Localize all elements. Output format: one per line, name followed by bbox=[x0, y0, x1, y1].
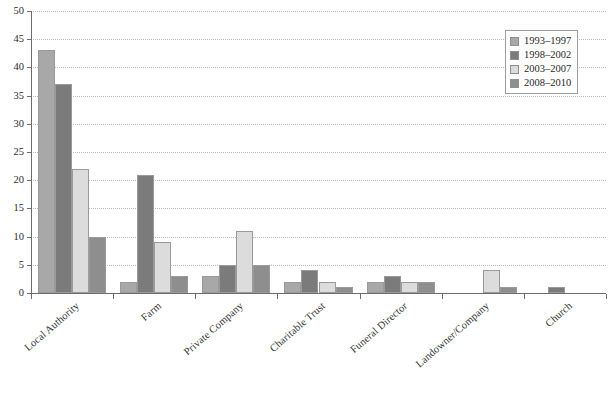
y-axis-tick-label: 50 bbox=[0, 6, 24, 17]
x-axis-tick bbox=[524, 294, 525, 299]
legend-label: 1993–1997 bbox=[524, 36, 571, 47]
x-axis-tick bbox=[195, 294, 196, 299]
bar bbox=[219, 265, 236, 293]
bar bbox=[367, 282, 384, 293]
x-axis-tick-label: Funeral Director bbox=[348, 300, 409, 355]
bar-chart-figure: 05101520253035404550 Local AuthorityFarm… bbox=[0, 0, 613, 393]
legend-swatch-icon bbox=[510, 79, 519, 88]
bar bbox=[154, 242, 171, 293]
y-axis-tick-label: 45 bbox=[0, 34, 24, 45]
x-axis-tick bbox=[277, 294, 278, 299]
x-axis-tick bbox=[606, 294, 607, 299]
x-axis-tick-label: Landowner/Company bbox=[414, 300, 492, 369]
x-axis-tick bbox=[360, 294, 361, 299]
legend-swatch-icon bbox=[510, 51, 519, 60]
bar bbox=[137, 175, 154, 293]
y-axis-tick-label: 30 bbox=[0, 119, 24, 130]
legend-label: 1998–2002 bbox=[524, 50, 571, 61]
x-axis-tick bbox=[31, 294, 32, 299]
chart-legend: 1993–19971998–20022003–20072008–2010 bbox=[505, 30, 578, 94]
legend-item: 2003–2007 bbox=[510, 62, 571, 76]
x-axis-tick-label: Local Authority bbox=[22, 300, 81, 353]
legend-label: 2008–2010 bbox=[524, 78, 571, 89]
x-axis-tick-label: Private Company bbox=[182, 300, 246, 357]
legend-item: 1993–1997 bbox=[510, 34, 571, 48]
bar bbox=[384, 276, 401, 293]
legend-item: 1998–2002 bbox=[510, 48, 571, 62]
y-axis-tick-label: 5 bbox=[0, 260, 24, 271]
y-axis-tick-label: 10 bbox=[0, 232, 24, 243]
x-axis-tick bbox=[442, 294, 443, 299]
bar bbox=[72, 169, 89, 293]
legend-swatch-icon bbox=[510, 37, 519, 46]
legend-label: 2003–2007 bbox=[524, 64, 571, 75]
x-axis-tick-label: Charitable Trust bbox=[268, 300, 328, 354]
y-axis-tick-label: 20 bbox=[0, 175, 24, 186]
bar bbox=[38, 50, 55, 293]
y-axis-tick-label: 25 bbox=[0, 147, 24, 158]
x-axis-tick-label: Farm bbox=[139, 300, 163, 323]
bar bbox=[120, 282, 137, 293]
legend-swatch-icon bbox=[510, 65, 519, 74]
y-axis-tick-label: 15 bbox=[0, 203, 24, 214]
bar bbox=[284, 282, 301, 293]
x-axis-line bbox=[31, 293, 606, 294]
y-axis-tick-label: 40 bbox=[0, 62, 24, 73]
bar bbox=[301, 270, 318, 293]
legend-item: 2008–2010 bbox=[510, 76, 571, 90]
bar bbox=[236, 231, 253, 293]
bar bbox=[202, 276, 219, 293]
x-axis-tick-label: Church bbox=[543, 300, 574, 329]
y-axis-tick-label: 0 bbox=[0, 288, 24, 299]
y-axis-tick-label: 35 bbox=[0, 91, 24, 102]
bar bbox=[55, 84, 72, 293]
x-axis-tick bbox=[113, 294, 114, 299]
